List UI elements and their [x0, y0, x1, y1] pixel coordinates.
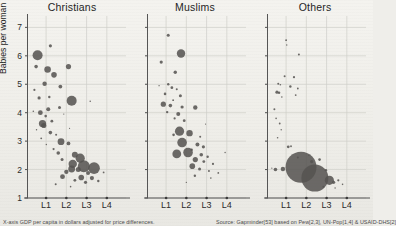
data-bubble[interactable] [177, 49, 185, 57]
data-bubble[interactable] [68, 166, 75, 173]
data-bubble[interactable] [61, 158, 64, 161]
scatter-panel-christians[interactable]: 1234567L1L2L3L4 [28, 16, 126, 198]
data-bubble[interactable] [172, 99, 174, 101]
data-bubble[interactable] [271, 168, 272, 169]
data-bubble[interactable] [190, 163, 196, 169]
data-bubble[interactable] [334, 187, 335, 188]
data-bubble[interactable] [52, 148, 54, 150]
data-bubble[interactable] [202, 160, 205, 163]
data-bubble[interactable] [44, 66, 51, 73]
data-bubble[interactable] [64, 170, 68, 174]
data-bubble[interactable] [78, 175, 84, 181]
scatter-panel-muslims[interactable]: L1L2L3L4 [148, 16, 246, 198]
data-bubble[interactable] [60, 174, 65, 179]
data-bubble[interactable] [67, 96, 77, 106]
data-bubble[interactable] [90, 176, 94, 180]
data-bubble[interactable] [76, 167, 81, 172]
data-bubble[interactable] [46, 107, 50, 111]
data-bubble[interactable] [281, 96, 283, 98]
data-bubble[interactable] [275, 118, 277, 120]
scatter-panel-others[interactable]: L1L2L3L4 [268, 16, 366, 198]
data-bubble[interactable] [186, 182, 187, 183]
data-bubble[interactable] [217, 172, 219, 174]
data-bubble[interactable] [224, 152, 225, 153]
data-bubble[interactable] [210, 177, 212, 179]
data-bubble[interactable] [55, 183, 57, 185]
data-bubble[interactable] [167, 34, 170, 37]
data-bubble[interactable] [279, 123, 281, 125]
data-bubble[interactable] [38, 110, 43, 115]
data-bubble[interactable] [290, 145, 292, 147]
data-bubble[interactable] [310, 160, 313, 163]
data-bubble[interactable] [44, 115, 47, 118]
data-bubble[interactable] [103, 172, 105, 174]
data-bubble[interactable] [161, 102, 166, 107]
data-bubble[interactable] [337, 179, 339, 181]
data-bubble[interactable] [273, 108, 275, 110]
data-bubble[interactable] [40, 137, 42, 139]
data-bubble[interactable] [175, 127, 184, 136]
data-bubble[interactable] [199, 136, 201, 138]
data-bubble[interactable] [172, 150, 181, 159]
data-bubble[interactable] [325, 169, 327, 171]
data-bubble[interactable] [86, 171, 90, 175]
data-bubble[interactable] [202, 145, 205, 148]
data-bubble[interactable] [160, 60, 163, 63]
data-bubble[interactable] [37, 96, 40, 99]
data-bubble[interactable] [41, 123, 46, 128]
data-bubble[interactable] [33, 50, 43, 60]
data-bubble[interactable] [277, 83, 279, 85]
data-bubble[interactable] [206, 156, 208, 158]
data-bubble[interactable] [166, 111, 168, 113]
data-bubble[interactable] [195, 143, 199, 147]
data-bubble[interactable] [58, 85, 62, 89]
data-bubble[interactable] [46, 144, 47, 145]
data-bubble[interactable] [193, 105, 197, 109]
data-bubble[interactable] [212, 163, 214, 165]
data-bubble[interactable] [174, 117, 176, 119]
data-bubble[interactable] [186, 130, 192, 136]
data-bubble[interactable] [179, 94, 182, 97]
data-bubble[interactable] [332, 181, 335, 184]
data-bubble[interactable] [177, 138, 187, 148]
data-bubble[interactable] [284, 75, 286, 77]
data-bubble[interactable] [73, 179, 76, 182]
data-bubble[interactable] [58, 138, 65, 145]
data-bubble[interactable] [67, 142, 71, 146]
data-bubble[interactable] [318, 158, 321, 161]
data-bubble[interactable] [58, 106, 61, 109]
data-bubble[interactable] [298, 53, 300, 55]
data-bubble[interactable] [208, 170, 210, 172]
data-bubble[interactable] [199, 153, 203, 157]
data-bubble[interactable] [205, 123, 206, 124]
data-bubble[interactable] [295, 94, 297, 96]
data-bubble[interactable] [34, 65, 38, 69]
data-bubble[interactable] [88, 162, 100, 174]
data-bubble[interactable] [293, 76, 295, 78]
data-bubble[interactable] [84, 181, 87, 184]
data-bubble[interactable] [274, 168, 278, 172]
data-bubble[interactable] [170, 86, 173, 89]
data-bubble[interactable] [33, 89, 35, 91]
data-bubble[interactable] [33, 110, 35, 112]
data-bubble[interactable] [48, 96, 50, 98]
data-bubble[interactable] [180, 105, 183, 108]
data-bubble[interactable] [56, 151, 60, 155]
data-bubble[interactable] [183, 148, 193, 158]
data-bubble[interactable] [193, 157, 198, 162]
data-bubble[interactable] [281, 167, 285, 171]
data-bubble[interactable] [89, 101, 91, 103]
data-bubble[interactable] [49, 131, 53, 135]
data-bubble[interactable] [63, 114, 64, 115]
data-bubble[interactable] [70, 186, 72, 188]
data-bubble[interactable] [308, 155, 309, 156]
data-bubble[interactable] [158, 85, 159, 86]
data-bubble[interactable] [194, 175, 196, 177]
data-bubble[interactable] [176, 88, 178, 90]
data-bubble[interactable] [172, 134, 175, 137]
data-bubble[interactable] [301, 165, 328, 192]
data-bubble[interactable] [176, 112, 180, 116]
data-bubble[interactable] [198, 167, 201, 170]
data-bubble[interactable] [289, 85, 291, 87]
data-bubble[interactable] [174, 71, 177, 74]
